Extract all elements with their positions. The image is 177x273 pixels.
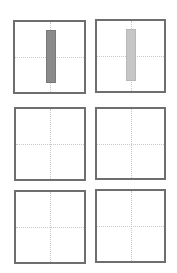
chart-panel-6 — [95, 189, 166, 263]
chart-panel-4 — [95, 107, 166, 180]
chart-panel-5 — [14, 190, 86, 264]
bar-2 — [126, 29, 136, 81]
chart-panel-3 — [14, 107, 86, 181]
gridline-horizontal — [97, 144, 164, 145]
gridline-horizontal — [16, 227, 84, 228]
gridline-horizontal — [97, 226, 164, 227]
gridline-horizontal — [16, 144, 84, 145]
bar-1 — [46, 30, 56, 83]
